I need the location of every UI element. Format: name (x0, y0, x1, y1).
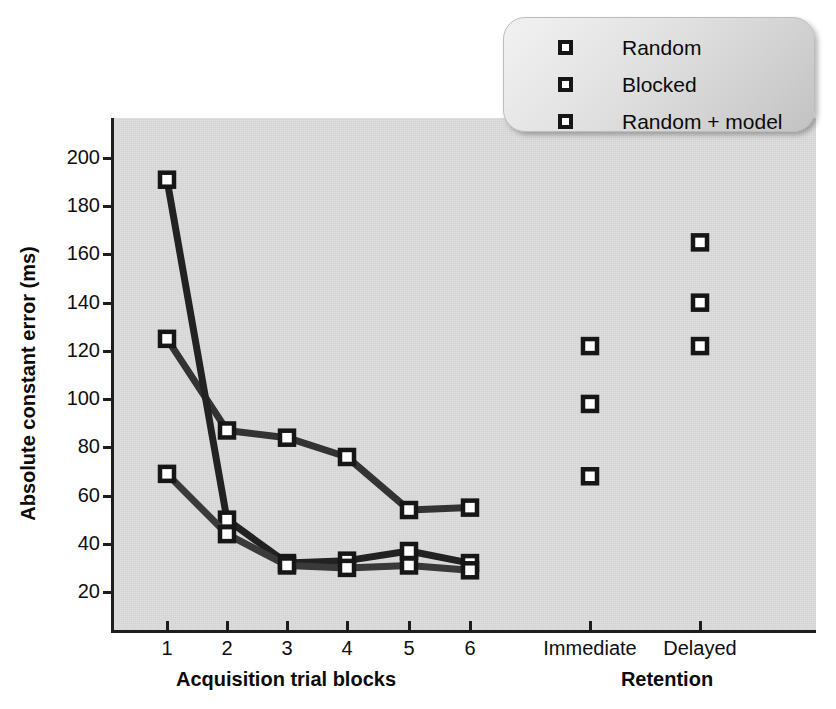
legend-marker-icon (558, 114, 573, 129)
data-point-marker (463, 501, 477, 515)
legend: Random Blocked Random + model (503, 17, 815, 132)
legend-swatch-icon (522, 72, 608, 98)
legend-marker-icon (558, 40, 573, 55)
legend-label-blocked: Blocked (622, 73, 697, 97)
data-point-marker (693, 339, 707, 353)
data-point-marker (160, 332, 174, 346)
legend-item-blocked[interactable]: Blocked (522, 72, 697, 98)
data-point-marker (583, 469, 597, 483)
legend-item-random[interactable]: Random (522, 35, 701, 61)
data-point-marker (280, 558, 294, 572)
data-point-marker (402, 558, 416, 572)
series-random (160, 235, 707, 517)
figure-chart: 20406080100120140160180200 123456Immedia… (0, 0, 836, 709)
data-point-marker (160, 173, 174, 187)
data-point-marker (463, 563, 477, 577)
data-point-marker (693, 296, 707, 310)
data-point-marker (693, 235, 707, 249)
data-point-marker (583, 339, 597, 353)
data-point-marker (220, 423, 234, 437)
legend-item-random-plus-model[interactable]: Random + model (522, 109, 783, 135)
data-point-marker (280, 431, 294, 445)
data-point-marker (340, 561, 354, 575)
legend-label-random: Random (622, 36, 701, 60)
data-point-marker (583, 397, 597, 411)
data-point-marker (402, 503, 416, 517)
legend-label-random-plus-model: Random + model (622, 110, 783, 134)
legend-marker-icon (558, 77, 573, 92)
series-line (167, 180, 470, 563)
series-random-model (160, 339, 707, 577)
legend-swatch-icon (522, 35, 608, 61)
data-point-marker (340, 450, 354, 464)
data-point-marker (160, 467, 174, 481)
data-point-marker (402, 544, 416, 558)
legend-swatch-icon (522, 109, 608, 135)
data-point-marker (220, 527, 234, 541)
